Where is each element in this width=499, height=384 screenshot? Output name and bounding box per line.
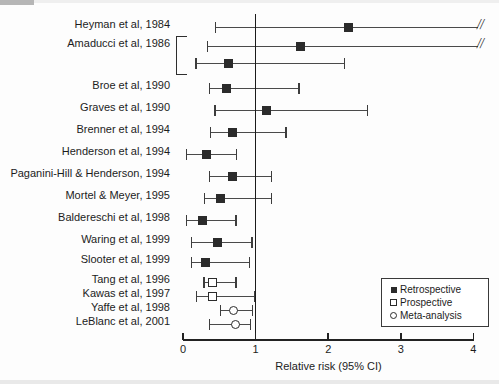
study-label: Slooter et al, 1999	[0, 253, 170, 265]
study-label: Henderson et al, 1994	[0, 145, 170, 157]
legend-item-prospective: Prospective	[387, 296, 483, 309]
confidence-interval-line	[210, 132, 286, 133]
point-estimate-marker	[213, 238, 222, 247]
x-axis-tick-label: 1	[241, 343, 271, 355]
ci-cap-upper	[252, 305, 253, 316]
open-circle-icon	[387, 312, 400, 319]
study-label: Brenner et al, 1994	[0, 123, 170, 135]
point-estimate-marker	[262, 106, 271, 115]
reference-line-rr1	[255, 14, 257, 339]
legend-item-retrospective: Retrospective	[387, 283, 483, 296]
study-label: Paganini-Hill & Henderson, 1994	[0, 167, 170, 179]
point-estimate-marker	[228, 128, 237, 137]
ci-cap-lower	[186, 215, 187, 226]
ci-cap-lower	[215, 22, 216, 33]
x-axis-title: Relative risk (95% CI)	[183, 360, 474, 372]
ci-cap-lower	[207, 41, 208, 52]
ci-cap-lower	[204, 193, 205, 204]
confidence-interval-line	[204, 198, 271, 199]
confidence-interval-line	[191, 262, 249, 263]
study-label: Heyman et al, 1984	[0, 18, 170, 30]
ci-cap-lower	[196, 291, 197, 302]
legend-label-prospective: Prospective	[400, 297, 452, 308]
filled-square-icon	[387, 287, 400, 293]
ci-cap-lower	[191, 237, 192, 248]
legend-item-meta-analysis: Meta-analysis	[387, 309, 483, 322]
x-axis-tick-label: 4	[458, 343, 488, 355]
confidence-interval-line	[209, 324, 250, 325]
ci-cap-upper	[285, 127, 286, 138]
ci-cap-lower	[209, 83, 210, 94]
x-axis-tick-label: 0	[168, 343, 198, 355]
confidence-interval-line	[207, 46, 478, 47]
study-label: Amaducci et al, 1986	[0, 37, 170, 49]
study-label: Tang et al, 1996	[0, 273, 170, 285]
study-label: Baldereschi et al, 1998	[0, 211, 170, 223]
confidence-interval-line	[209, 176, 271, 177]
x-axis-tick	[327, 333, 329, 340]
confidence-interval-line	[195, 63, 344, 64]
x-axis-tick	[400, 333, 402, 340]
confidence-interval-line	[186, 220, 235, 221]
ci-cap-lower	[220, 305, 221, 316]
point-estimate-marker	[216, 194, 225, 203]
legend-label-retrospective: Retrospective	[400, 284, 461, 295]
ci-cap-lower	[203, 277, 204, 288]
ci-cap-upper	[367, 105, 368, 116]
ci-cap-upper	[235, 215, 236, 226]
ci-cap-lower	[195, 58, 196, 69]
ci-cap-upper	[271, 171, 272, 182]
point-estimate-marker	[229, 306, 238, 315]
point-estimate-marker	[208, 292, 217, 301]
point-estimate-marker	[208, 278, 217, 287]
ci-cap-lower	[209, 319, 210, 330]
open-square-icon	[387, 299, 400, 306]
point-estimate-marker	[222, 84, 231, 93]
ci-cap-lower	[214, 105, 215, 116]
ci-cap-lower	[191, 257, 192, 268]
study-label: Yaffe et al, 1998	[0, 301, 170, 313]
x-axis-tick	[182, 333, 184, 340]
point-estimate-marker	[224, 59, 233, 68]
ci-cap-upper	[271, 193, 272, 204]
point-estimate-marker	[202, 150, 211, 159]
x-axis-tick	[473, 333, 475, 340]
legend-box: Retrospective Prospective Meta-analysis	[381, 278, 489, 327]
point-estimate-marker	[201, 258, 210, 267]
study-label: Mortel & Meyer, 1995	[0, 189, 170, 201]
ci-cap-upper	[236, 149, 237, 160]
ci-cap-upper	[298, 83, 299, 94]
ci-cap-upper	[344, 58, 345, 69]
point-estimate-marker	[228, 172, 237, 181]
legend-label-meta-analysis: Meta-analysis	[400, 310, 462, 321]
forest-plot-figure: Heyman et al, 1984//Amaducci et al, 1986…	[0, 0, 499, 384]
axis-break-marks: //	[476, 35, 485, 52]
group-bracket-amaducci	[176, 36, 187, 75]
point-estimate-marker	[344, 23, 353, 32]
ci-cap-lower	[209, 171, 210, 182]
study-label: Broe et al, 1990	[0, 79, 170, 91]
x-axis-tick	[255, 333, 257, 340]
confidence-interval-line	[196, 296, 254, 297]
point-estimate-marker	[231, 320, 240, 329]
ci-cap-upper	[251, 237, 252, 248]
ci-cap-lower	[186, 149, 187, 160]
ci-cap-upper	[250, 319, 251, 330]
x-axis-tick-label: 3	[386, 343, 416, 355]
study-label: Kawas et al, 1997	[0, 287, 170, 299]
point-estimate-marker	[198, 216, 207, 225]
study-label: LeBlanc et al, 2001	[0, 315, 170, 327]
confidence-interval-line	[214, 110, 366, 111]
x-axis-tick-label: 2	[313, 343, 343, 355]
ci-cap-upper	[249, 257, 250, 268]
study-label: Waring et al, 1999	[0, 233, 170, 245]
study-label: Graves et al, 1990	[0, 101, 170, 113]
ci-cap-upper	[235, 277, 236, 288]
point-estimate-marker	[296, 42, 305, 51]
axis-break-marks: //	[476, 16, 485, 33]
ci-cap-lower	[210, 127, 211, 138]
